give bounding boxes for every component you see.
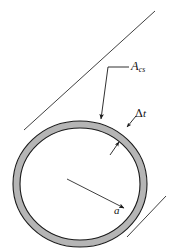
figure-canvas xyxy=(0,0,172,252)
area-leader-line xyxy=(101,67,129,119)
tube-wall-annulus xyxy=(13,121,147,247)
label-thickness-base: t xyxy=(143,107,146,119)
tube-cross-section-figure: Acs Δt a xyxy=(0,0,172,252)
label-wall-thickness: Δt xyxy=(135,108,146,119)
label-area-subscript: cs xyxy=(139,65,146,74)
label-radius: a xyxy=(114,205,120,216)
label-area-base: A xyxy=(131,59,139,73)
delta-symbol: Δ xyxy=(135,107,143,120)
label-cross-sectional-area: Acs xyxy=(131,60,146,73)
